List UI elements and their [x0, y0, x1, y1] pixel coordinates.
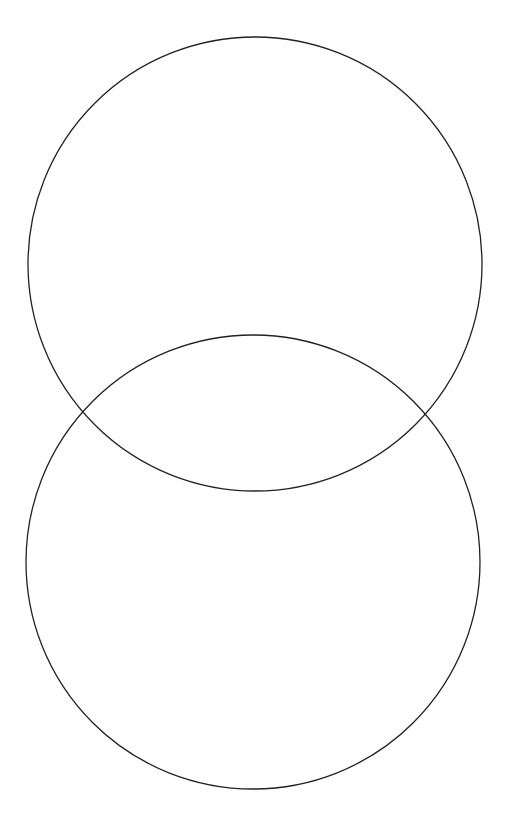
top-circle: [28, 37, 482, 491]
diagram-canvas: [0, 0, 515, 821]
venn-diagram: [0, 0, 515, 821]
bottom-circle: [26, 335, 480, 789]
